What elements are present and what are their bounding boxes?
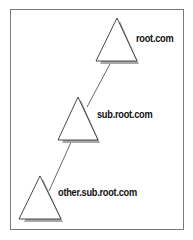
node-label-other: other.sub.root.com [58, 186, 137, 198]
node-label-sub: sub.root.com [97, 108, 152, 120]
node-label-root: root.com [136, 32, 173, 44]
